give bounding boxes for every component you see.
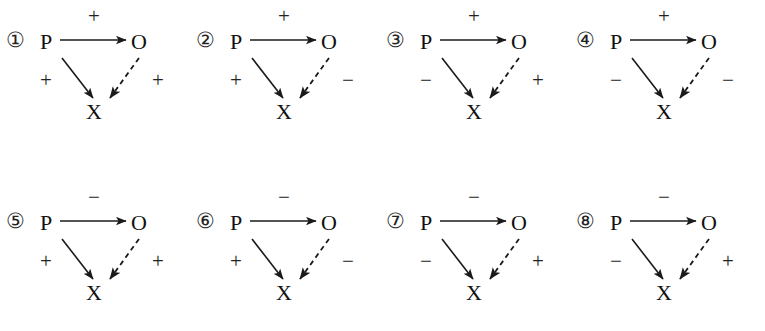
sign-o-to-x: + [152, 70, 164, 91]
sign-o-to-x: + [532, 251, 544, 272]
node-x-label: X [656, 101, 672, 123]
sign-p-to-x: − [610, 70, 622, 91]
node-p-label: P [40, 212, 52, 234]
causal-panel-7: ⑦POX−−+ [380, 181, 570, 331]
node-o-label: O [321, 31, 337, 53]
node-p-label: P [420, 31, 432, 53]
node-o-label: O [321, 212, 337, 234]
edge-o-to-x [300, 58, 329, 98]
edge-p-to-x [442, 58, 473, 98]
node-x-label: X [276, 101, 292, 123]
sign-p-to-o: + [278, 6, 290, 27]
node-o-label: O [131, 212, 147, 234]
edge-o-to-x [110, 239, 139, 279]
sign-p-to-o: + [88, 6, 100, 27]
sign-p-to-x: + [40, 70, 52, 91]
panel-index-label: ⑦ [386, 211, 405, 232]
sign-p-to-x: − [420, 70, 432, 91]
sign-o-to-x: − [342, 251, 354, 272]
edge-p-to-x [632, 239, 663, 279]
causal-panel-2: ②POX++− [190, 0, 380, 150]
causal-panel-6: ⑥POX−+− [190, 181, 380, 331]
edge-p-to-x [62, 58, 93, 98]
edge-p-to-x [252, 239, 283, 279]
node-p-label: P [40, 31, 52, 53]
sign-p-to-x: + [230, 251, 242, 272]
sign-p-to-o: + [468, 6, 480, 27]
sign-o-to-x: + [722, 251, 734, 272]
edge-o-to-x [680, 239, 709, 279]
node-o-label: O [511, 212, 527, 234]
sign-p-to-o: − [88, 187, 100, 208]
node-o-label: O [511, 31, 527, 53]
node-p-label: P [230, 31, 242, 53]
causal-panel-8: ⑧POX−−+ [570, 181, 760, 331]
panel-index-label: ⑥ [196, 211, 215, 232]
edge-o-to-x [490, 58, 519, 98]
panel-index-label: ④ [576, 30, 595, 51]
node-o-label: O [701, 31, 717, 53]
node-x-label: X [656, 282, 672, 304]
sign-p-to-o: − [278, 187, 290, 208]
node-o-label: O [701, 212, 717, 234]
causal-panel-4: ④POX+−− [570, 0, 760, 150]
sign-o-to-x: + [532, 70, 544, 91]
causal-diagram-figure: ①POX+++②POX++−③POX+−+④POX+−−⑤POX−++⑥POX−… [0, 0, 765, 331]
panel-index-label: ⑤ [6, 211, 25, 232]
sign-p-to-x: + [40, 251, 52, 272]
node-x-label: X [276, 282, 292, 304]
sign-o-to-x: − [722, 70, 734, 91]
panel-index-label: ⑧ [576, 211, 595, 232]
node-x-label: X [86, 282, 102, 304]
causal-panel-5: ⑤POX−++ [0, 181, 190, 331]
node-p-label: P [420, 212, 432, 234]
edge-p-to-x [252, 58, 283, 98]
causal-panel-1: ①POX+++ [0, 0, 190, 150]
causal-panel-3: ③POX+−+ [380, 0, 570, 150]
edge-o-to-x [110, 58, 139, 98]
edge-p-to-x [632, 58, 663, 98]
sign-o-to-x: − [342, 70, 354, 91]
sign-p-to-o: + [658, 6, 670, 27]
sign-o-to-x: + [152, 251, 164, 272]
panel-index-label: ③ [386, 30, 405, 51]
edge-o-to-x [490, 239, 519, 279]
node-x-label: X [466, 282, 482, 304]
sign-p-to-x: − [610, 251, 622, 272]
edge-p-to-x [442, 239, 473, 279]
edge-o-to-x [300, 239, 329, 279]
sign-p-to-o: − [468, 187, 480, 208]
edge-p-to-x [62, 239, 93, 279]
panel-index-label: ② [196, 30, 215, 51]
sign-p-to-x: − [420, 251, 432, 272]
sign-p-to-x: + [230, 70, 242, 91]
node-p-label: P [610, 31, 622, 53]
sign-p-to-o: − [658, 187, 670, 208]
panel-index-label: ① [6, 30, 25, 51]
node-x-label: X [466, 101, 482, 123]
node-o-label: O [131, 31, 147, 53]
edge-o-to-x [680, 58, 709, 98]
node-p-label: P [610, 212, 622, 234]
node-x-label: X [86, 101, 102, 123]
node-p-label: P [230, 212, 242, 234]
